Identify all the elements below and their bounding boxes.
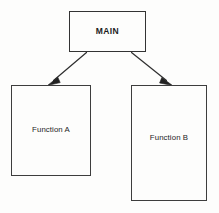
node-function-b[interactable]: Function B bbox=[131, 85, 207, 201]
node-function-a-label: Function A bbox=[32, 126, 70, 135]
connector-main-to-function-a bbox=[48, 53, 87, 86]
node-main-label: MAIN bbox=[96, 27, 119, 36]
connector-main-to-function-b bbox=[132, 53, 173, 86]
diagram-canvas: MAIN Function A Function B bbox=[0, 0, 219, 213]
node-function-b-label: Function B bbox=[150, 134, 188, 143]
node-main[interactable]: MAIN bbox=[69, 11, 146, 52]
node-function-a[interactable]: Function A bbox=[11, 85, 91, 176]
